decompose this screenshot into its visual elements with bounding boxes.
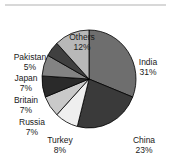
pie-label-others: Others 12% bbox=[55, 32, 109, 52]
pie-label-others-name: Others bbox=[55, 32, 109, 42]
pie-label-japan-name: Japan bbox=[2, 73, 50, 83]
pie-label-russia-name: Russia bbox=[6, 117, 58, 127]
pie-label-china: China 23% bbox=[119, 135, 169, 155]
pie-label-turkey: Turkey 8% bbox=[34, 135, 86, 155]
pie-label-pakistan-pct: 5% bbox=[2, 62, 58, 72]
pie-label-russia: Russia 7% bbox=[6, 117, 58, 137]
pie-label-britain-pct: 7% bbox=[0, 105, 52, 115]
pie-label-pakistan-name: Pakistan bbox=[2, 52, 58, 62]
pie-label-india: India 31% bbox=[126, 57, 170, 77]
pie-label-india-name: India bbox=[126, 57, 170, 67]
pie-label-china-pct: 23% bbox=[119, 145, 169, 155]
pie-label-britain-name: Britain bbox=[0, 95, 52, 105]
pie-label-china-name: China bbox=[119, 135, 169, 145]
pie-label-japan-pct: 7% bbox=[2, 83, 50, 93]
pie-label-japan: Japan 7% bbox=[2, 73, 50, 93]
pie-chart-figure: Others 12% Pakistan 5% Japan 7% Britain … bbox=[0, 0, 171, 160]
pie-label-turkey-pct: 8% bbox=[34, 145, 86, 155]
pie-label-india-pct: 31% bbox=[126, 67, 170, 77]
pie-label-pakistan: Pakistan 5% bbox=[2, 52, 58, 72]
pie-label-britain: Britain 7% bbox=[0, 95, 52, 115]
pie-label-turkey-name: Turkey bbox=[34, 135, 86, 145]
pie-label-others-pct: 12% bbox=[55, 42, 109, 52]
